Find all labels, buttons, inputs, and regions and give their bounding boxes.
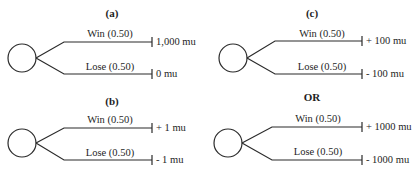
branch-label-b-lose: Lose (0.50) bbox=[86, 148, 134, 159]
branch-label-c-alt-lose: Lose (0.50) bbox=[294, 147, 342, 158]
branch-label-b-win: Win (0.50) bbox=[87, 115, 133, 126]
chance-node-c bbox=[219, 44, 247, 72]
panel-title-a: (a) bbox=[106, 8, 119, 19]
win-branch-c-alt bbox=[242, 127, 362, 143]
payoff-c-alt-lose: - 1000 mu bbox=[366, 155, 409, 166]
tree-c-alt bbox=[214, 122, 362, 165]
chance-node-b bbox=[8, 129, 36, 157]
or-separator: OR bbox=[304, 92, 321, 103]
win-branch-a bbox=[36, 42, 152, 58]
branch-label-a-lose: Lose (0.50) bbox=[86, 62, 134, 73]
win-branch-c bbox=[247, 41, 362, 58]
tree-b bbox=[8, 123, 152, 165]
chance-node-c-alt bbox=[214, 129, 242, 157]
payoff-b-win: + 1 mu bbox=[156, 123, 186, 134]
payoff-a-win: 1,000 mu bbox=[156, 37, 196, 48]
branch-label-c-alt-win: Win (0.50) bbox=[295, 114, 341, 125]
payoff-c-win: + 100 mu bbox=[366, 36, 406, 47]
branch-label-c-lose: Lose (0.50) bbox=[298, 62, 346, 73]
win-branch-b bbox=[36, 128, 152, 143]
tree-graphics bbox=[0, 0, 417, 177]
branch-label-c-win: Win (0.50) bbox=[299, 29, 345, 40]
gamble-diagrams: (a) (b) (c) OR Win (0.50) Lose (0.50) 1,… bbox=[0, 0, 417, 177]
panel-title-c: (c) bbox=[306, 8, 318, 19]
branch-label-a-win: Win (0.50) bbox=[87, 29, 133, 40]
chance-node-a bbox=[8, 44, 36, 72]
tree-c bbox=[219, 36, 362, 79]
tree-a bbox=[8, 37, 152, 79]
payoff-c-lose: - 100 mu bbox=[366, 69, 404, 80]
payoff-c-alt-win: + 1000 mu bbox=[366, 122, 412, 133]
payoff-b-lose: - 1 mu bbox=[156, 155, 183, 166]
payoff-a-lose: 0 mu bbox=[156, 69, 177, 80]
panel-title-b: (b) bbox=[105, 96, 118, 107]
